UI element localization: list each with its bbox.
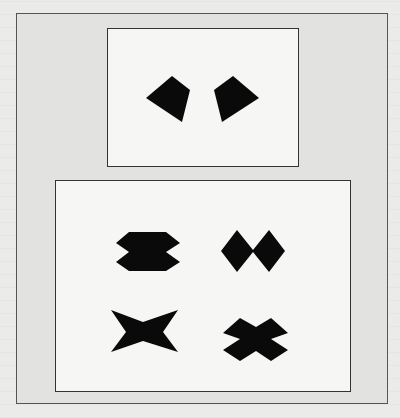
- left-arrowhead-shape: [146, 76, 190, 122]
- four-point-star-shape: [111, 310, 178, 352]
- figure-shapes-layer: [0, 0, 400, 418]
- stacked-hexagons-shape: [116, 232, 180, 271]
- right-arrowhead-shape: [214, 76, 259, 122]
- double-diamond-shape: [221, 230, 285, 272]
- x-cross-shape: [223, 318, 288, 361]
